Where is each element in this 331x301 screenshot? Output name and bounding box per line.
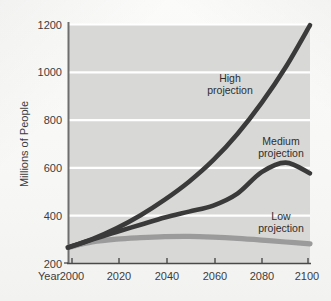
x-tick-label-2080: 2080 bbox=[250, 270, 274, 282]
population-projection-figure: 1200 1000 800 600 400 200 2000 2020 2040… bbox=[0, 0, 331, 301]
y-tick-label-400: 400 bbox=[44, 210, 62, 222]
y-tick-label-600: 600 bbox=[44, 162, 62, 174]
annotation-low-projection-line1: Low bbox=[271, 210, 291, 222]
annotation-medium-projection-line1: Medium bbox=[262, 135, 300, 147]
annotation-high-projection-line2: projection bbox=[207, 84, 253, 96]
annotation-low-projection-line2: projection bbox=[258, 222, 304, 234]
y-axis-title: Millions of People bbox=[18, 101, 30, 187]
x-tick-label-2040: 2040 bbox=[155, 270, 179, 282]
annotation-high-projection-line1: High bbox=[219, 72, 241, 84]
annotation-medium-projection: Medium projection bbox=[258, 135, 304, 159]
y-tick-label-800: 800 bbox=[44, 114, 62, 126]
y-tick-label-200: 200 bbox=[44, 258, 62, 270]
x-tick-label-2060: 2060 bbox=[203, 270, 227, 282]
x-tick-label-2020: 2020 bbox=[107, 270, 131, 282]
x-tick-label-2100: 2100 bbox=[295, 270, 319, 282]
y-tick-label-1000: 1000 bbox=[38, 66, 62, 78]
x-tick-label-2000: 2000 bbox=[60, 270, 84, 282]
projection-line-chart: 1200 1000 800 600 400 200 2000 2020 2040… bbox=[0, 0, 331, 301]
x-axis-title: Year bbox=[38, 270, 61, 282]
y-tick-label-1200: 1200 bbox=[38, 19, 62, 31]
annotation-medium-projection-line2: projection bbox=[258, 147, 304, 159]
